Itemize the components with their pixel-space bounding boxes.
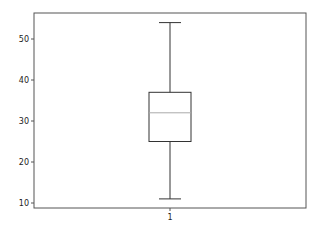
y-tick-label: 40 [19, 76, 29, 85]
y-tick-label: 20 [19, 158, 29, 167]
x-axis-ticks: 1 [167, 208, 172, 222]
y-axis-ticks: 1020304050 [19, 35, 34, 208]
box-plot-elements [149, 23, 191, 199]
x-tick-label: 1 [167, 213, 172, 222]
y-tick-label: 30 [19, 117, 29, 126]
y-tick-label: 10 [19, 199, 29, 208]
interquartile-box [149, 92, 191, 141]
box-plot-chart: 1020304050 1 [0, 0, 321, 227]
y-tick-label: 50 [19, 35, 29, 44]
